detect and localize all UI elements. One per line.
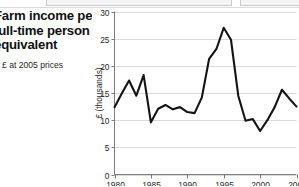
data-series-line (115, 28, 297, 131)
x-tick-label: 1985 (142, 180, 161, 187)
x-axis-tick-labels: 198019851990199520002005 (106, 180, 299, 187)
line-chart: 051015202530 198019851990199520002005 £ … (92, 0, 299, 186)
x-tick-label: 2005 (288, 180, 299, 187)
chart-legend-entry: £ at 2005 prices (0, 60, 92, 70)
x-tick-label: 1980 (106, 180, 125, 187)
chart-title-line-2: full-time person (0, 24, 92, 39)
x-tick-label: 1995 (215, 180, 234, 187)
chart-svg: 051015202530 198019851990199520002005 £ … (92, 0, 299, 186)
chart-title-line-1: Farm income per (0, 9, 92, 24)
x-axis-ticks (116, 175, 298, 179)
y-axis-title: £ (thousands) (94, 67, 104, 118)
y-tick-label: 5 (105, 143, 110, 153)
y-tick-label: 30 (100, 8, 110, 18)
chart-caption-block: Farm income per full-time person equival… (0, 9, 92, 70)
x-tick-label: 1990 (178, 180, 197, 187)
x-tick-label: 2000 (251, 180, 270, 187)
y-tick-label: 25 (100, 35, 110, 45)
gridlines (115, 13, 297, 176)
chart-subtitle: £ at 2005 prices (2, 60, 63, 70)
chart-title-line-3: equivalent (0, 38, 92, 53)
